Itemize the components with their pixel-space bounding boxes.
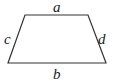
label-left-c: c (4, 31, 11, 47)
label-right-d: d (98, 31, 106, 47)
trapezoid-diagram: a b c d (0, 0, 118, 84)
trapezoid-shape (8, 15, 106, 63)
label-top-a: a (53, 0, 61, 15)
label-bottom-b: b (53, 66, 61, 82)
